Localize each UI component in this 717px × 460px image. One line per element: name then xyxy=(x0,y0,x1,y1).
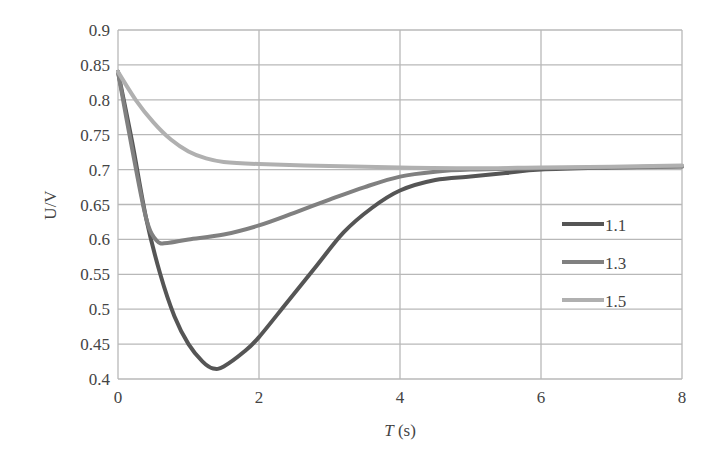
line-chart: 0.40.450.50.550.60.650.70.750.80.850.902… xyxy=(0,0,717,460)
x-tick-label: 4 xyxy=(396,388,405,407)
y-tick-label: 0.7 xyxy=(89,161,111,180)
legend-label: 1.5 xyxy=(605,292,626,311)
legend-label: 1.1 xyxy=(605,216,626,235)
y-tick-label: 0.55 xyxy=(80,265,110,284)
y-tick-label: 0.4 xyxy=(89,370,111,389)
grid-lines xyxy=(118,30,682,379)
y-tick-label: 0.85 xyxy=(80,56,110,75)
x-tick-label: 2 xyxy=(255,388,264,407)
axis-ticks: 0.40.450.50.550.60.650.70.750.80.850.902… xyxy=(80,21,686,407)
y-tick-label: 0.45 xyxy=(80,335,110,354)
y-tick-label: 0.5 xyxy=(89,300,110,319)
y-tick-label: 0.8 xyxy=(89,91,110,110)
y-tick-label: 0.6 xyxy=(89,230,110,249)
y-tick-label: 0.75 xyxy=(80,126,110,145)
y-axis-label: U/V xyxy=(41,190,60,220)
x-tick-label: 6 xyxy=(537,388,546,407)
x-tick-label: 0 xyxy=(114,388,123,407)
x-tick-label: 8 xyxy=(678,388,687,407)
x-axis-label: T (s) xyxy=(384,421,416,440)
x-axis-label-unit: (s) xyxy=(394,421,416,440)
y-tick-label: 0.65 xyxy=(80,196,110,215)
legend-label: 1.3 xyxy=(605,254,626,273)
y-tick-label: 0.9 xyxy=(89,21,110,40)
legend: 1.11.31.5 xyxy=(562,216,626,311)
